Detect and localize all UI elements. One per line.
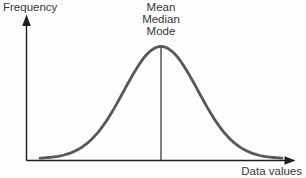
mode-label: Mode — [142, 25, 180, 37]
x-axis-arrow-icon — [285, 156, 296, 165]
distribution-figure: Frequency Mean Median Mode Data values — [0, 0, 306, 178]
y-axis-label: Frequency — [3, 1, 57, 13]
peak-labels: Mean Median Mode — [142, 1, 180, 37]
mean-label: Mean — [142, 1, 180, 13]
y-axis-arrow-icon — [22, 15, 31, 27]
x-axis-label: Data values — [241, 165, 302, 177]
median-label: Median — [142, 13, 180, 25]
